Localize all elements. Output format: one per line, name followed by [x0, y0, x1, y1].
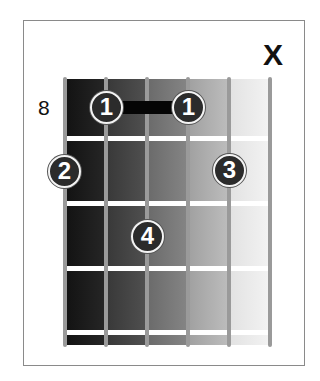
starting-fret-label: 8 [38, 96, 50, 120]
finger-dot: 3 [213, 154, 246, 187]
fret-4 [67, 330, 268, 335]
fretboard-column-5 [229, 79, 270, 345]
finger-dot: 4 [131, 220, 164, 253]
string-1 [63, 77, 67, 347]
string-6 [268, 77, 272, 347]
fret-1 [67, 136, 268, 141]
barre-bar [120, 101, 176, 114]
fret-3 [67, 266, 268, 271]
muted-string-marker: X [260, 40, 286, 70]
finger-dot: 2 [48, 155, 81, 188]
string-3 [145, 77, 149, 347]
finger-dot: 1 [90, 91, 123, 124]
finger-dot: 1 [172, 91, 205, 124]
string-5 [227, 77, 231, 347]
fret-2 [67, 201, 268, 206]
